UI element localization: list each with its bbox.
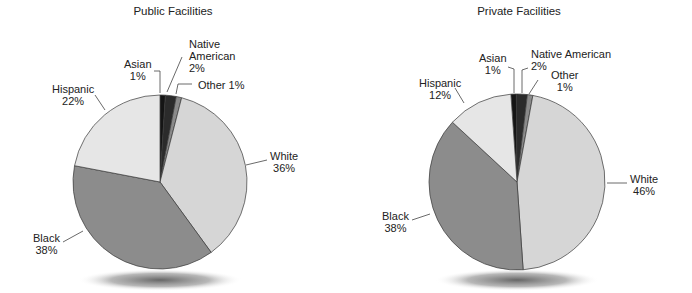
label-name: Hispanic [419, 77, 461, 89]
pie-slices [429, 94, 605, 270]
label-name: Asian [479, 52, 507, 64]
label-name: Asian [124, 58, 152, 70]
label-black: Black 38% [382, 210, 409, 234]
label-pct: 38% [382, 222, 409, 234]
pie-slice-white [517, 95, 605, 269]
label-hispanic: Hispanic 12% [419, 77, 461, 101]
public-facilities-chart: Public Facilities Asian 1% Native Americ… [0, 0, 346, 293]
label-name: White [630, 173, 658, 185]
label-name: Black [382, 210, 409, 222]
label-pct: 1% [551, 81, 579, 93]
label-white: White 46% [630, 173, 658, 197]
label-name: Black [33, 232, 60, 244]
label-pct: 2% [189, 62, 235, 74]
label-name: American [189, 50, 235, 62]
label-asian: Asian 1% [124, 58, 152, 82]
pie-shadow [78, 269, 242, 291]
label-black: Black 38% [33, 232, 60, 256]
label-white: White 36% [270, 150, 298, 174]
private-facilities-chart: Private Facilities Asian 1% Native Ameri… [346, 0, 692, 293]
label-pct: 1% [479, 64, 507, 76]
label-name: Native [189, 38, 235, 50]
label-name: White [270, 150, 298, 162]
pie-shadow [435, 269, 599, 291]
label-name: Other [551, 69, 579, 81]
label-pct: 12% [419, 89, 461, 101]
label-pct: 46% [630, 185, 658, 197]
label-other: Other 1% [551, 69, 579, 93]
label-other: Other 1% [198, 79, 244, 91]
label-native-american: Native American 2% [189, 38, 235, 74]
label-pct: 38% [33, 244, 60, 256]
label-pct: 36% [270, 162, 298, 174]
label-asian: Asian 1% [479, 52, 507, 76]
label-pct: 22% [52, 95, 94, 107]
label-name: Hispanic [52, 83, 94, 95]
pie-svg [346, 0, 692, 293]
label-name: Native American [531, 48, 611, 60]
pie-slices [73, 95, 247, 269]
label-pct: 1% [124, 70, 152, 82]
label-hispanic: Hispanic 22% [52, 83, 94, 107]
